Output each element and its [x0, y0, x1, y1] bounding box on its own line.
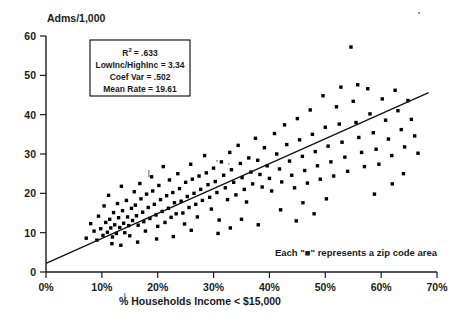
data-point — [295, 219, 298, 222]
data-point — [196, 215, 199, 218]
scan-speck — [216, 160, 218, 162]
data-point — [254, 137, 257, 140]
data-point — [349, 45, 352, 48]
data-point — [203, 154, 206, 157]
data-point — [145, 192, 148, 195]
data-point — [243, 188, 246, 191]
data-point — [293, 186, 296, 189]
data-point — [163, 221, 166, 224]
data-point — [85, 236, 88, 239]
x-tick-label: 20% — [147, 281, 169, 293]
data-point — [314, 150, 317, 153]
data-point — [171, 191, 174, 194]
data-point — [240, 218, 243, 221]
data-point — [111, 235, 114, 238]
data-point — [189, 163, 192, 166]
scan-speck — [418, 12, 420, 14]
stat-line-mean-rate: Mean Rate = 19.61 — [103, 84, 177, 94]
data-point — [283, 123, 286, 126]
data-point — [184, 181, 187, 184]
data-point — [360, 151, 363, 154]
data-point — [329, 160, 332, 163]
data-point — [306, 181, 309, 184]
data-point — [280, 180, 283, 183]
data-point — [197, 174, 200, 177]
x-tick-label: 30% — [203, 281, 225, 293]
data-point — [279, 208, 282, 211]
data-point — [116, 202, 119, 205]
stat-r-value: = .633 — [134, 48, 158, 58]
data-point — [150, 175, 153, 178]
data-point — [319, 177, 322, 180]
data-point — [393, 89, 396, 92]
data-point — [199, 188, 202, 191]
data-point — [260, 185, 263, 188]
data-point — [144, 229, 147, 232]
data-point — [263, 146, 266, 149]
x-tick-label: 50% — [315, 281, 337, 293]
data-point — [332, 174, 335, 177]
data-point — [346, 170, 349, 173]
data-point — [122, 222, 125, 225]
data-point — [278, 167, 281, 170]
data-point — [172, 235, 175, 238]
data-point — [400, 128, 403, 131]
regression-line — [46, 93, 429, 264]
data-point — [151, 189, 154, 192]
y-tick-label: 10 — [24, 227, 36, 239]
data-point — [301, 201, 304, 204]
data-point — [123, 231, 126, 234]
data-point — [173, 201, 176, 204]
data-point — [381, 97, 384, 100]
data-point — [275, 152, 278, 155]
data-point — [106, 231, 109, 234]
data-point — [136, 240, 139, 243]
data-point — [101, 234, 104, 237]
data-point — [174, 212, 177, 215]
data-point — [340, 141, 343, 144]
data-point — [125, 199, 128, 202]
data-point — [190, 229, 193, 232]
data-point — [136, 223, 139, 226]
data-point — [108, 218, 111, 221]
data-point — [165, 194, 168, 197]
data-point — [326, 144, 329, 147]
data-point — [309, 108, 312, 111]
data-point — [162, 165, 165, 168]
data-point — [141, 211, 144, 214]
data-point — [387, 137, 390, 140]
data-point — [206, 183, 209, 186]
data-point — [402, 172, 405, 175]
data-point — [257, 223, 260, 226]
data-point — [396, 109, 399, 112]
scan-speck — [228, 163, 230, 165]
data-point — [316, 164, 319, 167]
data-point — [135, 214, 138, 217]
data-point — [338, 122, 341, 125]
data-point — [229, 226, 232, 229]
data-point — [104, 221, 107, 224]
data-point — [181, 211, 184, 214]
data-point — [373, 192, 376, 195]
data-point — [296, 117, 299, 120]
data-point — [324, 126, 327, 129]
data-point — [217, 218, 220, 221]
y-tick-label: 20 — [24, 187, 36, 199]
data-point — [117, 216, 120, 219]
trendline — [46, 93, 429, 264]
data-point — [273, 132, 276, 135]
data-point — [247, 156, 250, 159]
data-point — [126, 215, 129, 218]
data-point — [335, 105, 338, 108]
data-point — [169, 216, 172, 219]
data-point — [230, 168, 233, 171]
data-point — [303, 169, 306, 172]
data-point — [133, 190, 136, 193]
data-point — [390, 154, 393, 157]
data-point — [99, 227, 102, 230]
x-axis-title: % Households Income < $15,000 — [119, 295, 281, 307]
data-point — [155, 237, 158, 240]
chart-canvas: 0102030405060 0%10%20%30%40%50%60%70% Ad… — [0, 0, 457, 322]
data-point — [258, 173, 261, 176]
data-point — [176, 172, 179, 175]
